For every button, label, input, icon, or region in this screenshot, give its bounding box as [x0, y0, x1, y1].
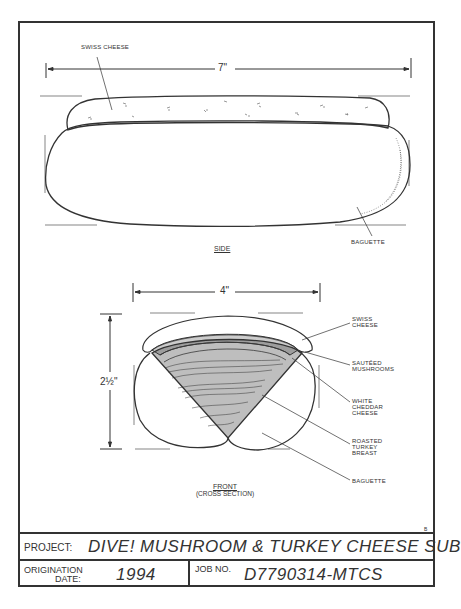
title-block-divider: [188, 561, 190, 587]
front-width-dimension: 4": [220, 285, 229, 296]
project-row: PROJECT: DIVE! MUSHROOM & TURKEY CHEESE …: [18, 532, 435, 559]
callout-swiss-cheese-front: SWISS CHEESE: [352, 316, 392, 328]
side-length-dimension: 7": [218, 62, 227, 73]
callout-sauteed-mushrooms: SAUTÉED MUSHROOMS: [352, 360, 402, 372]
front-view-label: FRONT: [190, 483, 260, 490]
callout-baguette-side: BAGUETTE: [351, 239, 385, 245]
side-view-label: SIDE: [214, 245, 230, 252]
project-key: PROJECT:: [24, 542, 72, 553]
callout-roasted-turkey-breast: ROASTED TURKEY BREAST: [352, 438, 388, 456]
callout-white-cheddar-cheese: WHITE CHEDDAR CHEESE: [352, 398, 388, 416]
callout-baguette-front: BAGUETTE: [352, 478, 386, 484]
job-number-key: JOB NO.: [195, 565, 231, 574]
front-view-sublabel: (CROSS SECTION): [180, 490, 270, 497]
project-value: DIVE! MUSHROOM & TURKEY CHEESE SUB: [88, 537, 461, 557]
job-number-value: D7790314-MTCS: [244, 565, 383, 585]
callout-swiss-cheese-side: SWISS CHEESE: [81, 44, 129, 50]
front-height-dimension: 2½": [100, 376, 117, 387]
origination-date-value: 1994: [116, 565, 156, 585]
title-block: PROJECT: DIVE! MUSHROOM & TURKEY CHEESE …: [18, 532, 435, 587]
origination-job-row: ORIGINATION DATE: 1994 JOB NO. D7790314-…: [18, 559, 435, 587]
origination-key-line2: DATE:: [55, 575, 81, 584]
